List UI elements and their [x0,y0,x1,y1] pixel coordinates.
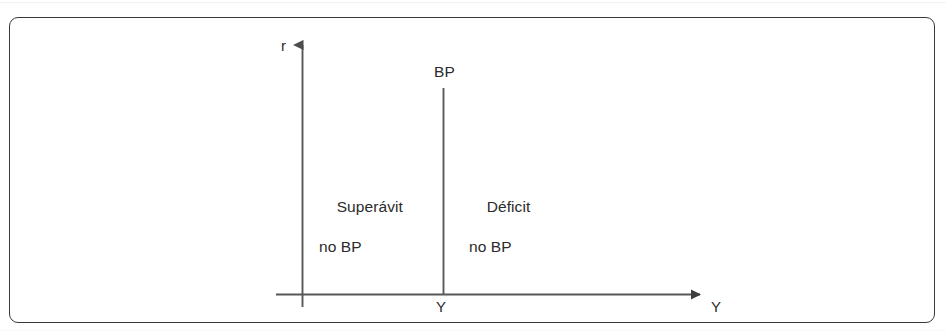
bp-curve-label: BP [434,62,455,82]
vertical-axis-label: r [281,36,286,56]
surplus-region-line1: Superávit [337,198,403,215]
deficit-region-label: Déficit no BP [469,177,530,297]
horizontal-axis-label: Y [711,297,721,317]
figure-container: r BP Y Y Superávit no BP Déficit no BP [0,0,946,331]
surplus-region-line2: no BP [319,237,403,257]
deficit-region-line2: no BP [469,237,530,257]
deficit-region-line1: Déficit [487,198,531,215]
bp-intercept-label: Y [436,297,446,317]
surplus-region-label: Superávit no BP [319,177,403,297]
